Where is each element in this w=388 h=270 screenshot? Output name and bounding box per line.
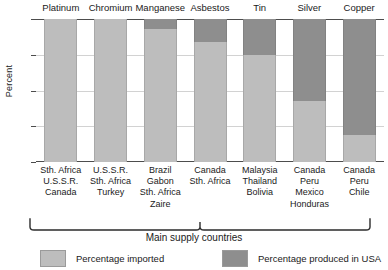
bar-copper[interactable] (343, 19, 376, 162)
supply-country: U.S.S.R. (33, 176, 89, 187)
bar-segment-domestic[interactable] (144, 19, 177, 29)
supply-countries-silver: CanadaPeruMexicoHonduras (282, 165, 338, 210)
bar-segment-imported[interactable] (194, 42, 227, 162)
legend: Percentage importedPercentage produced i… (0, 249, 388, 270)
y-tick-mark (31, 162, 36, 163)
supply-country: Canada (331, 165, 387, 176)
supply-country: Sth. Africa (83, 176, 139, 187)
supply-countries-asbestos: CanadaSth. Africa (182, 165, 238, 187)
supply-country: Turkey (83, 187, 139, 198)
y-axis-title: Percent (4, 46, 14, 116)
category-label-copper: Copper (334, 3, 384, 13)
supply-country: Mexico (282, 187, 338, 198)
bar-segment-domestic[interactable] (243, 19, 276, 55)
bar-silver[interactable] (293, 19, 326, 162)
bar-segment-domestic[interactable] (343, 19, 376, 135)
supply-country: Thailand (232, 176, 288, 187)
supply-country: Sth. Africa (33, 165, 89, 176)
category-label-tin: Tin (235, 3, 285, 13)
legend-swatch-domestic (222, 250, 248, 267)
supply-countries-tin: MalaysiaThailandBolivia (232, 165, 288, 199)
stacked-bar-chart: Percent 0255075100 PlatinumChromiumManga… (0, 0, 388, 270)
bars-layer (36, 19, 384, 162)
bar-tin[interactable] (243, 19, 276, 162)
legend-label: Percentage imported (76, 253, 164, 264)
bar-segment-imported[interactable] (343, 135, 376, 162)
category-label-silver: Silver (285, 3, 335, 13)
bar-manganese[interactable] (144, 19, 177, 162)
supply-countries-copper: CanadaPeruChile (331, 165, 387, 199)
bar-segment-imported[interactable] (293, 101, 326, 162)
bar-segment-imported[interactable] (144, 29, 177, 162)
supply-country: Chile (331, 187, 387, 198)
bar-segment-domestic[interactable] (293, 19, 326, 101)
legend-label: Percentage produced in USA (258, 253, 381, 264)
x-axis-title: Main supply countries (0, 232, 388, 243)
supply-countries-chromium: U.S.S.R.Sth. AfricaTurkey (83, 165, 139, 199)
supply-country: Honduras (282, 199, 338, 210)
legend-item-imported[interactable]: Percentage imported (40, 249, 164, 268)
supply-country: Zaire (132, 199, 188, 210)
axis-brace (26, 218, 374, 232)
legend-swatch-imported (40, 250, 66, 267)
supply-countries-platinum: Sth. AfricaU.S.S.R.Canada (33, 165, 89, 199)
bar-segment-imported[interactable] (44, 19, 77, 162)
brace-icon (26, 218, 374, 232)
bar-segment-imported[interactable] (243, 55, 276, 162)
supply-country: Canada (33, 187, 89, 198)
bar-segment-imported[interactable] (94, 19, 127, 162)
supply-country: Brazil (132, 165, 188, 176)
supply-country: Malaysia (232, 165, 288, 176)
bar-segment-domestic[interactable] (194, 19, 227, 42)
category-label-platinum: Platinum (36, 3, 86, 13)
supply-country: Bolivia (232, 187, 288, 198)
category-label-chromium: Chromium (86, 3, 136, 13)
supply-country: Sth. Africa (182, 176, 238, 187)
bar-platinum[interactable] (44, 19, 77, 162)
supply-countries-manganese: BrazilGabonSth. AfricaZaire (132, 165, 188, 210)
supply-country: Canada (182, 165, 238, 176)
bar-asbestos[interactable] (194, 19, 227, 162)
category-label-manganese: Manganese (135, 3, 185, 13)
supply-country: Peru (282, 176, 338, 187)
supply-country: Gabon (132, 176, 188, 187)
supply-country: Peru (331, 176, 387, 187)
supply-country: Canada (282, 165, 338, 176)
legend-item-domestic[interactable]: Percentage produced in USA (222, 249, 381, 268)
supply-country: U.S.S.R. (83, 165, 139, 176)
bar-chromium[interactable] (94, 19, 127, 162)
category-label-asbestos: Asbestos (185, 3, 235, 13)
supply-country: Sth. Africa (132, 187, 188, 198)
